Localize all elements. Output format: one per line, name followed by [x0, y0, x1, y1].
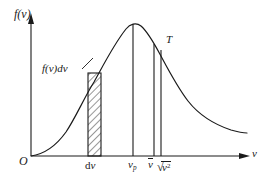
dv-strip-fill — [88, 73, 101, 156]
vbar-label-base: v — [148, 159, 153, 170]
area-annotation-label: f(v)dv — [42, 63, 68, 74]
area-label-leader — [82, 58, 93, 69]
x-axis-arrowhead — [239, 153, 250, 159]
origin-label: O — [19, 155, 28, 167]
maxwell-distribution-figure: f(v) v O f(v)dv T dv vp v √ v2 — [0, 0, 270, 180]
plot-canvas — [0, 0, 270, 180]
vbar-tick-label: v — [148, 159, 153, 170]
dv-label-v: v — [91, 159, 96, 171]
vrms-radicand: v2 — [161, 161, 171, 173]
temperature-label: T — [166, 34, 172, 45]
area-label-fv: f(v)dv — [42, 62, 68, 74]
x-axis-label: v — [252, 148, 257, 159]
distribution-curve — [31, 24, 247, 156]
dv-tick-label: dv — [85, 160, 95, 171]
y-axis-label: f(v) — [14, 8, 31, 20]
vrms-label-base: v — [162, 162, 167, 173]
vrms-label-exponent: 2 — [167, 162, 170, 169]
vrms-tick-label: √ v2 — [157, 161, 171, 173]
vp-tick-label: vp — [128, 159, 137, 172]
vp-label-subscript: p — [133, 164, 137, 172]
